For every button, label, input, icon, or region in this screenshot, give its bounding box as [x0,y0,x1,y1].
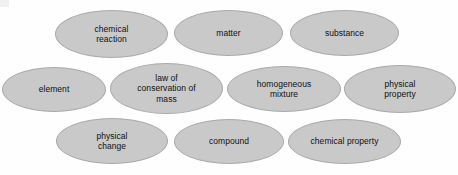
corner-artifact-mark [0,0,9,7]
term-bubble-homogeneous-mixture[interactable]: homogeneous mixture [227,66,341,112]
term-bubble-physical-change[interactable]: physical change [56,118,168,164]
term-label-physical-change: physical change [90,131,133,152]
term-bubble-chemical-property[interactable]: chemical property [288,119,401,164]
term-bubble-law-of-conservation-of-mass[interactable]: law of conservation of mass [110,63,223,114]
term-label-element: element [33,84,76,95]
term-label-substance: substance [319,28,370,39]
term-label-law-of-conservation-of-mass: law of conservation of mass [131,73,201,105]
term-bubble-matter[interactable]: matter [174,10,283,56]
term-label-physical-property: physical property [378,79,422,100]
term-label-matter: matter [210,28,246,39]
term-bubble-chemical-reaction[interactable]: chemical reaction [55,10,168,58]
term-bubble-element[interactable]: element [2,67,106,112]
term-label-homogeneous-mixture: homogeneous mixture [251,79,317,100]
term-label-compound: compound [203,136,255,147]
term-bubble-substance[interactable]: substance [290,10,399,56]
term-bubble-physical-property[interactable]: physical property [344,65,456,113]
term-label-chemical-property: chemical property [305,136,385,147]
term-bubble-compound[interactable]: compound [174,119,284,164]
term-label-chemical-reaction: chemical reaction [89,24,135,45]
word-bank-diagram: chemical reactionmattersubstanceelementl… [0,0,458,175]
